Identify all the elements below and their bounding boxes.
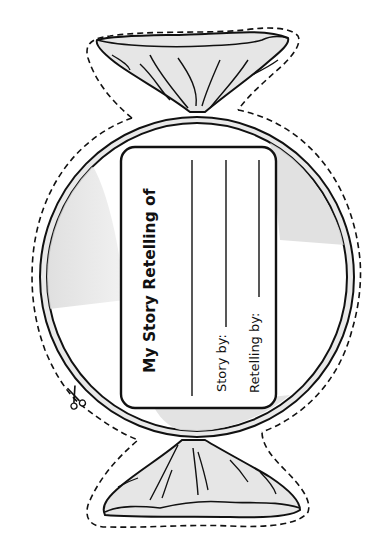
- story-by-label: Story by:: [214, 334, 229, 392]
- label-card: My Story Retelling of Story by: Retellin…: [121, 147, 276, 408]
- retelling-by-label: Retelling by:: [247, 313, 262, 393]
- candy-cutout-page: My Story Retelling of Story by: Retellin…: [0, 0, 388, 551]
- top-wrapper: [97, 32, 289, 112]
- card-title: My Story Retelling of: [141, 188, 159, 373]
- bottom-wrapper: [104, 440, 300, 517]
